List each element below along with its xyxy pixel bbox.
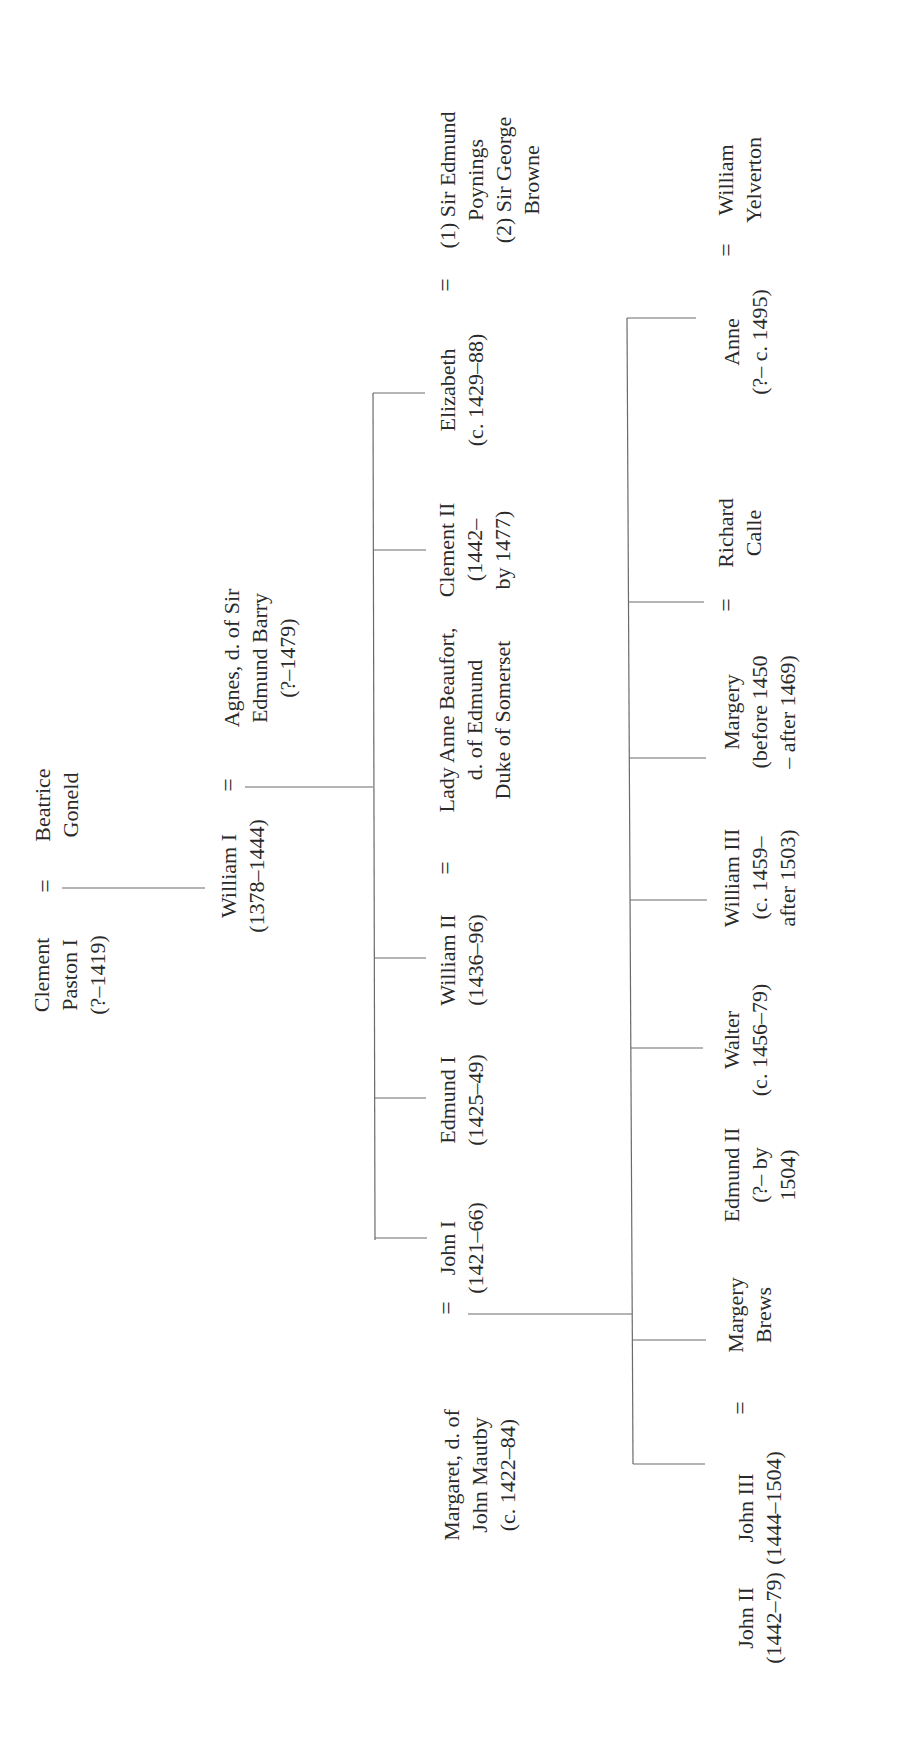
person-clement-ii: Clement II (1442– by 1477) bbox=[433, 503, 517, 598]
person-william-ii: William II (1436–96) bbox=[434, 914, 490, 1006]
person-john-iii: John III (1444–1504) bbox=[732, 1451, 788, 1565]
marriage-symbol: = bbox=[433, 278, 457, 292]
person-anne: Anne (?– c. 1495) bbox=[718, 289, 774, 395]
person-elizabeth-spouses: (1) Sir Edmund Poynings (2) Sir George B… bbox=[434, 112, 546, 249]
person-john-i: John I (1421–66) bbox=[434, 1202, 490, 1294]
person-richard-calle: Richard Calle bbox=[712, 498, 768, 568]
person-walter: Walter (c. 1456–79) bbox=[718, 984, 774, 1096]
sibling-bar-gen3 bbox=[627, 318, 633, 1464]
marriage-symbol: = bbox=[434, 1301, 458, 1315]
marriage-symbol: = bbox=[728, 1401, 752, 1415]
person-agnes-barry: Agnes, d. of Sir Edmund Barry (?–1479) bbox=[218, 589, 302, 728]
marriage-symbol: = bbox=[33, 879, 57, 893]
marriage-symbol: = bbox=[714, 243, 738, 257]
person-margery: Margery (before 1450 – after 1469) bbox=[718, 655, 802, 769]
marriage-symbol: = bbox=[433, 861, 457, 875]
person-william-i: William I (1378–1444) bbox=[215, 819, 271, 933]
person-william-iii: William III (c. 1459– after 1503) bbox=[718, 829, 802, 928]
person-margaret-mautby: Margaret, d. of John Mautby (c. 1422–84) bbox=[438, 1409, 522, 1541]
person-beatrice-goneld: Beatrice Goneld bbox=[29, 768, 85, 841]
family-tree-diagram: Clement Paston I (?–1419) = Beatrice Gon… bbox=[0, 0, 911, 1739]
person-edmund-ii: Edmund II (?– by 1504) bbox=[718, 1128, 802, 1223]
person-clement-paston-i: Clement Paston I (?–1419) bbox=[28, 935, 112, 1014]
person-edmund-i: Edmund I (1425–49) bbox=[434, 1054, 490, 1146]
marriage-symbol: = bbox=[216, 778, 240, 792]
person-margery-brews: Margery Brews bbox=[722, 1277, 778, 1352]
sibling-bar-gen2 bbox=[373, 393, 375, 1240]
person-lady-anne-beaufort: Lady Anne Beaufort, d. of Edmund Duke of… bbox=[433, 627, 517, 812]
person-john-ii: John II (1442–79) bbox=[732, 1572, 788, 1664]
person-william-yelverton: William Yelverton bbox=[712, 137, 768, 223]
marriage-symbol: = bbox=[714, 598, 738, 612]
person-elizabeth: Elizabeth (c. 1429–88) bbox=[434, 334, 490, 446]
